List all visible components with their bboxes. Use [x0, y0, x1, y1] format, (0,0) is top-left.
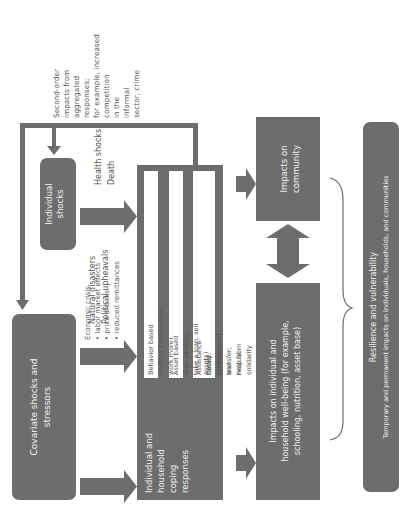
assistance-based-text-2: family, relatives, and mutual solidarity…	[204, 343, 264, 375]
impacts-individual-box: Impacts on individual and household well…	[256, 283, 320, 500]
coping-responses-box: Behavior based (reduce consumption, work…	[137, 165, 223, 500]
feedback-line-top	[20, 123, 198, 128]
arrow-right-icon	[124, 470, 137, 503]
coping-diagram: Individual shocks Covariate shocks and s…	[0, 0, 408, 521]
feedback-line-left	[20, 123, 25, 303]
health-shocks-annotation: Health shocks Death	[92, 129, 118, 185]
resilience-box: Resilience and vulnerability Temporary a…	[363, 122, 399, 492]
arrow-right-icon	[124, 340, 137, 373]
second-order-annotation: Second-order impacts from aggregated res…	[52, 34, 142, 118]
feedback-line-right	[193, 123, 198, 167]
impacts-community-box: Impacts on community	[256, 117, 320, 221]
resilience-label: Resilience and vulnerability Temporary a…	[368, 132, 392, 482]
individual-shocks-box: Individual shocks	[40, 158, 76, 250]
impacts-individual-label: Impacts on individual and household well…	[268, 311, 304, 471]
arrow-down-icon	[16, 300, 29, 310]
coping-label: Individual and household coping response…	[143, 433, 191, 493]
arrow-right-icon	[246, 447, 256, 479]
individual-shocks-label: Individual shocks	[44, 176, 66, 232]
arrow-right-icon	[246, 168, 256, 200]
arrow-down-icon	[47, 146, 61, 155]
curly-brace	[330, 178, 352, 440]
natural-disasters-annotation: Natural disasters Political upheavals	[86, 250, 112, 324]
impacts-community-label: Impacts on community	[278, 139, 302, 199]
covariate-shocks-box: Covariate shocks and stressors	[12, 314, 76, 500]
arrow-right-icon	[124, 200, 137, 233]
covariate-shocks-label: Covariate shocks and stressors	[28, 342, 54, 472]
arrow-up-icon	[266, 224, 310, 238]
arrow-down-icon	[266, 264, 310, 278]
